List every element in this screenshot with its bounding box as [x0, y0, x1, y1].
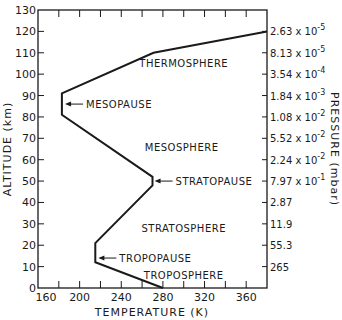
pressure-tick-label: 2.63 x 10-5: [270, 23, 325, 37]
pressure-tick-label: 265: [270, 262, 289, 273]
layer-annotations: THERMOSPHEREMESOPAUSEMESOSPHERESTRATOPAU…: [65, 58, 252, 281]
y-axis-label: ALTITUDE (km): [1, 102, 14, 196]
x-tick-label: 280: [152, 291, 173, 304]
pressure-tick-label: 55.3: [270, 240, 292, 251]
region-label-stratosphere: STRATOSPHERE: [141, 223, 226, 234]
y-tick-label: 0: [29, 282, 36, 295]
y-tick-label: 120: [15, 25, 36, 38]
pressure-tick-label: 2.24 x 10-2: [270, 152, 325, 166]
pressure-exponent: -2: [317, 109, 325, 118]
pressure-exponent: -5: [317, 45, 325, 54]
y-tick-label: 70: [22, 132, 36, 145]
pressure-tick-label: 5.52 x 10-2: [270, 130, 325, 144]
pressure-tick-label: 1.08 x 10-2: [270, 109, 325, 123]
x-tick-label: 320: [194, 291, 215, 304]
x-tick-label: 160: [36, 291, 57, 304]
atmosphere-temperature-chart: 160200240280320360 010203040506070809010…: [0, 0, 342, 320]
pressure-exponent: -1: [317, 173, 325, 182]
pressure-tick-label: 11.9: [270, 219, 292, 230]
arrow-label-text: TROPOPAUSE: [118, 253, 191, 264]
arrow-head-icon: [98, 256, 104, 261]
region-label-mesosphere: MESOSPHERE: [145, 142, 219, 153]
temperature-profile-line: [62, 31, 267, 288]
x-tick-label: 360: [236, 291, 257, 304]
arrow-label-mesopause: MESOPAUSE: [65, 99, 152, 110]
y-tick-label: 60: [22, 154, 36, 167]
arrow-label-text: MESOPAUSE: [86, 99, 152, 110]
pressure-exponent: -3: [317, 88, 325, 97]
pressure-tick-label: 2.87: [270, 197, 292, 208]
y-tick-label: 10: [22, 261, 36, 274]
pressure-axis-label: PRESSURE (mbar): [328, 92, 341, 206]
pressure-exponent: -2: [317, 152, 325, 161]
pressure-tick-label: 8.13 x 10-5: [270, 45, 325, 59]
y-tick-label: 40: [22, 196, 36, 209]
arrow-label-tropopause: TROPOPAUSE: [98, 253, 191, 264]
y-tick-label: 80: [22, 111, 36, 124]
y-axis-ticks: 0102030405060708090100110120130: [15, 4, 44, 295]
arrow-label-text: STRATOPAUSE: [176, 176, 253, 187]
arrow-head-icon: [155, 179, 161, 184]
pressure-tick-label: 7.97 x 10-1: [270, 173, 325, 187]
x-tick-label: 200: [69, 291, 90, 304]
y-tick-label: 100: [15, 68, 36, 81]
pressure-tick-label: 1.84 x 10-3: [270, 88, 325, 102]
region-label-troposphere: TROPOSPHERE: [143, 270, 224, 281]
y-tick-label: 90: [22, 90, 36, 103]
pressure-axis-ticks: 2.63 x 10-58.13 x 10-53.54 x 10-41.84 x …: [262, 23, 325, 272]
y-tick-label: 20: [22, 239, 36, 252]
y-tick-label: 110: [15, 47, 36, 60]
y-tick-label: 30: [22, 218, 36, 231]
arrow-label-stratopause: STRATOPAUSE: [155, 176, 253, 187]
arrow-head-icon: [65, 102, 71, 107]
pressure-exponent: -5: [317, 23, 325, 32]
x-axis-label: TEMPERATURE (K): [94, 306, 209, 319]
pressure-exponent: -2: [317, 130, 325, 139]
pressure-tick-label: 3.54 x 10-4: [270, 66, 325, 80]
x-tick-label: 240: [111, 291, 132, 304]
region-label-thermosphere: THERMOSPHERE: [138, 58, 228, 69]
pressure-exponent: -4: [317, 66, 325, 75]
y-tick-label: 130: [15, 4, 36, 17]
y-tick-label: 50: [22, 175, 36, 188]
